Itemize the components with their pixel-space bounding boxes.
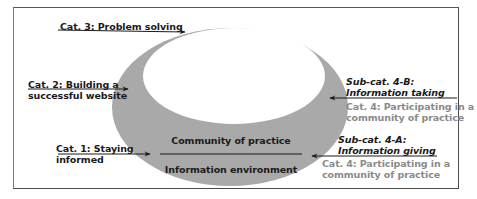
subcat-4a-line2: Information giving: [338, 145, 436, 156]
inner-ellipse: [143, 28, 325, 124]
subcat-4b-line1: Sub-cat. 4-B:: [346, 76, 445, 87]
subcat-4b-line2: Information taking: [346, 87, 445, 98]
cat-4-lower-line1: Cat. 4: Participating in a: [322, 158, 450, 169]
cat-2-title-line2: successful website: [28, 90, 127, 101]
cat-2-title-line1: Cat. 2: Building a: [28, 79, 127, 90]
subcat-4b-label: Sub-cat. 4-B: Information taking: [346, 76, 445, 98]
cat-4-upper-line1: Cat. 4: Participating in a: [346, 101, 474, 112]
cat-2-label: Cat. 2: Building a successful website: [28, 79, 127, 101]
cat-1-title-line2: informed: [56, 154, 134, 165]
cat-4-lower-line2: community of practice: [322, 169, 450, 180]
cat-3-label: Cat. 3: Problem solving: [60, 21, 183, 32]
cat-4-label-lower: Cat. 4: Participating in a community of …: [322, 158, 450, 180]
subcat-4a-label: Sub-cat. 4-A: Information giving: [338, 134, 436, 156]
cat-3-title: Cat. 3: Problem solving: [60, 21, 183, 32]
community-of-practice-label: Community of practice: [160, 135, 302, 146]
information-environment-label: Information environment: [160, 164, 302, 175]
cat-4-upper-line2: community of practice: [346, 112, 474, 123]
cat-1-title-line1: Cat. 1: Staying: [56, 143, 134, 154]
cat-4-label-upper: Cat. 4: Participating in a community of …: [346, 101, 474, 123]
cat-1-label: Cat. 1: Staying informed: [56, 143, 134, 165]
subcat-4a-line1: Sub-cat. 4-A:: [338, 134, 436, 145]
